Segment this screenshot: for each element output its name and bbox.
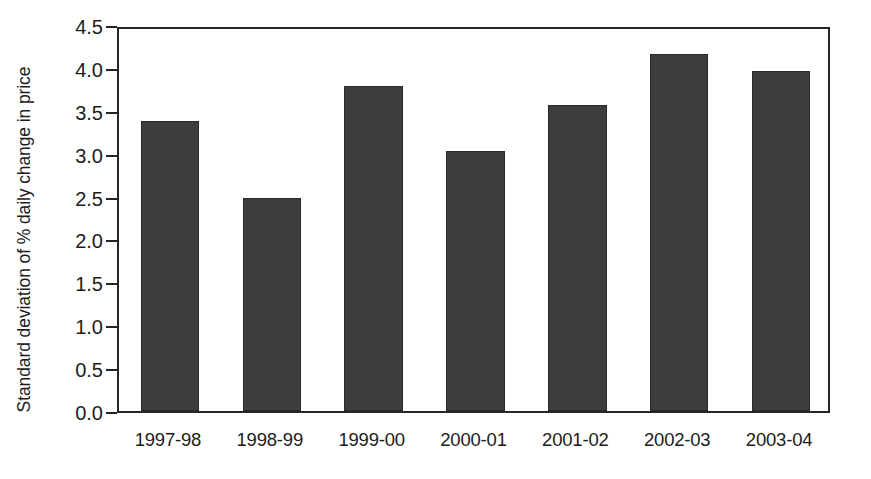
y-axis-tick-mark bbox=[106, 112, 117, 114]
y-axis-tick-mark bbox=[106, 155, 117, 157]
bar bbox=[141, 121, 200, 411]
y-axis-ticks: 0.00.51.01.52.02.53.03.54.04.5 bbox=[0, 0, 117, 479]
y-axis-tick-label: 0.0 bbox=[75, 400, 103, 426]
plot-area bbox=[117, 27, 830, 413]
x-axis-tick-label: 1998-99 bbox=[219, 428, 321, 452]
y-axis-tick-mark bbox=[106, 283, 117, 285]
x-axis-tick-label: 2001-02 bbox=[524, 428, 626, 452]
y-axis-tick-label: 2.0 bbox=[75, 228, 103, 254]
bar bbox=[344, 86, 403, 411]
bar bbox=[752, 71, 811, 411]
y-axis-tick-mark bbox=[106, 326, 117, 328]
bar-chart-figure: Standard deviation of % daily change in … bbox=[0, 0, 871, 479]
y-axis-tick-label: 3.5 bbox=[75, 100, 103, 126]
y-axis-tick-label: 1.0 bbox=[75, 314, 103, 340]
y-axis-tick-label: 0.5 bbox=[75, 357, 103, 383]
y-axis-tick-mark bbox=[106, 69, 117, 71]
bar bbox=[243, 198, 302, 411]
x-axis-tick-label: 2000-01 bbox=[423, 428, 525, 452]
y-axis-tick-mark bbox=[106, 412, 117, 414]
bar bbox=[650, 54, 709, 411]
x-axis-tick-label: 1997-98 bbox=[117, 428, 219, 452]
y-axis-tick-label: 3.0 bbox=[75, 143, 103, 169]
x-axis-tick-label: 1999-00 bbox=[321, 428, 423, 452]
y-axis-tick-mark bbox=[106, 240, 117, 242]
y-axis-tick-mark bbox=[106, 198, 117, 200]
y-axis-tick-label: 4.0 bbox=[75, 57, 103, 83]
x-axis-tick-label: 2002-03 bbox=[626, 428, 728, 452]
bar bbox=[446, 151, 505, 411]
y-axis-tick-label: 4.5 bbox=[75, 14, 103, 40]
bar bbox=[548, 105, 607, 411]
x-axis-tick-label: 2003-04 bbox=[728, 428, 830, 452]
y-axis-tick-mark bbox=[106, 369, 117, 371]
y-axis-tick-mark bbox=[106, 26, 117, 28]
y-axis-tick-label: 1.5 bbox=[75, 271, 103, 297]
y-axis-tick-label: 2.5 bbox=[75, 186, 103, 212]
